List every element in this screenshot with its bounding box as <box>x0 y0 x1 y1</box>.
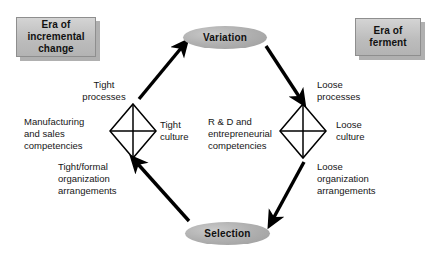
node-selection: Selection <box>185 222 270 245</box>
node-variation: Variation <box>183 26 267 49</box>
tight-diamond <box>110 104 156 158</box>
node-variation-label: Variation <box>203 32 247 43</box>
label-tight-processes: Tight processes <box>72 79 136 103</box>
era-box-ferment: Era of ferment <box>355 18 421 56</box>
label-loose-culture: Loose culture <box>336 119 376 143</box>
label-rd-and-entrepreneurial-competencies: R & D and entrepreneurial competencies <box>208 116 280 152</box>
label-loose-processes: Loose processes <box>317 79 377 103</box>
diagram-canvas: Era of incremental change Era of ferment… <box>0 0 435 254</box>
arrow-tight-to-variation <box>139 47 182 99</box>
arrow-variation-to-loose <box>266 46 300 98</box>
label-tight-formal-organization-arrangements: Tight/formal organization arrangements <box>58 161 142 197</box>
era-box-incremental-change-label: Era of incremental change <box>27 19 84 54</box>
label-manufacturing-and-sales-competencies: Manufacturing and sales competencies <box>24 116 108 152</box>
loose-diamond <box>280 104 326 158</box>
label-loose-organization-arrangements: Loose organization arrangements <box>317 161 399 197</box>
arrow-selection-to-tight <box>137 163 189 221</box>
era-box-incremental-change: Era of incremental change <box>16 17 96 57</box>
node-selection-label: Selection <box>204 228 250 239</box>
era-box-ferment-label: Era of ferment <box>369 25 406 49</box>
arrow-loose-to-selection <box>273 162 304 219</box>
label-tight-culture: Tight culture <box>160 119 194 143</box>
